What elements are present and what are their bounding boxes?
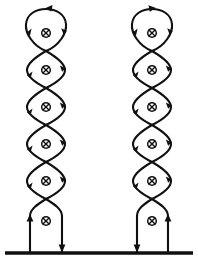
right-chain — [132, 5, 173, 252]
right-symbol-4 — [148, 140, 157, 149]
left-symbol-2 — [42, 66, 51, 75]
right-leg-up-arrow — [165, 214, 172, 222]
left-symbol-3 — [42, 103, 51, 112]
diagram-canvas — [0, 0, 198, 259]
left-loop-6-outline-right — [46, 199, 62, 252]
left-symbol-4 — [42, 140, 51, 149]
left-chain — [26, 5, 67, 253]
flux-rope-diagram — [0, 0, 198, 259]
right-loop-6-outline-right — [152, 199, 168, 252]
right-symbol-3 — [148, 103, 157, 112]
right-symbol-2 — [148, 66, 157, 75]
right-symbol-6 — [148, 217, 157, 226]
left-symbol-1 — [42, 29, 51, 38]
left-loop-1-apex-arrow — [45, 5, 53, 12]
right-loop-1-apex-arrow — [149, 5, 157, 12]
left-leg-up-arrow — [27, 214, 34, 222]
left-symbol-5 — [42, 177, 51, 186]
right-symbol-5 — [148, 177, 157, 186]
left-symbol-6 — [42, 217, 51, 226]
left-loop-6-outline — [30, 199, 46, 252]
right-symbol-1 — [148, 29, 157, 38]
